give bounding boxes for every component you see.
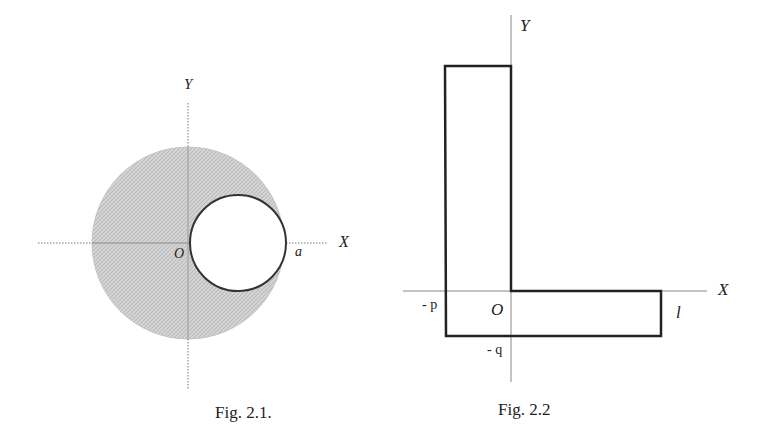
fig1-origin-label: O <box>174 246 184 262</box>
fig2-y-axis-label: Y <box>520 16 529 36</box>
fig2-x-axis-label: X <box>718 280 728 300</box>
diagram-canvas <box>0 0 764 446</box>
fig2-origin-label: O <box>491 300 503 320</box>
fig2-minus-q-label: - q <box>487 342 502 358</box>
fig2-length-label: l <box>676 303 681 323</box>
fig2-caption: Fig. 2.2 <box>498 400 550 420</box>
fig1-caption: Fig. 2.1. <box>215 403 272 423</box>
fig1-x-axis-label: X <box>339 233 349 251</box>
inner-hole <box>190 195 286 291</box>
fig2-minus-p-label: - p <box>422 297 437 313</box>
fig1-radius-label: a <box>295 244 302 260</box>
figure-2-2 <box>403 15 707 382</box>
l-section-outline <box>445 66 661 336</box>
fig1-y-axis-label: Y <box>184 76 192 93</box>
